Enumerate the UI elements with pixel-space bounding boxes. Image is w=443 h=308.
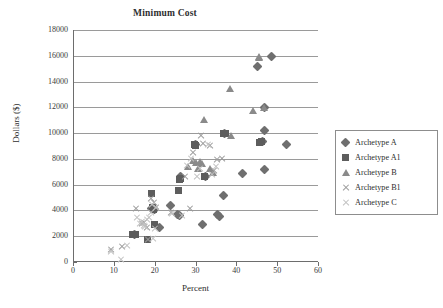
data-point-diamond [201,172,211,182]
x-axis-line [73,261,318,262]
y-axis-tick-labels: 0200040006000800010000120001400016000180… [34,30,68,262]
x-tick-label: 0 [60,266,86,275]
gridline [73,159,318,160]
x-tick-label: 30 [183,266,209,275]
data-point-square [192,142,199,149]
data-point-diamond [253,62,263,72]
gridline [73,107,318,108]
legend-item-archetype-a[interactable]: Archetype A [340,135,434,150]
legend-marker-triangle-icon [340,167,351,178]
data-point-star [208,170,216,178]
triangle-icon [342,169,350,176]
data-point-square [191,141,198,148]
data-point-square [256,139,263,146]
data-point-star [145,214,153,222]
y-tick-label: 12000 [48,102,68,111]
x-icon [342,184,350,192]
data-point-diamond [281,140,291,150]
legend-item-archetype-a1[interactable]: Archetype A1 [340,150,434,165]
diamond-icon [341,138,351,148]
x-tick-label: 50 [264,266,290,275]
data-point-diamond [155,223,165,233]
legend-item-archetype-b1[interactable]: Archetype B1 [340,180,434,195]
data-point-diamond [165,200,175,210]
star-icon [342,199,350,207]
data-point-x [206,142,214,150]
y-tick-label: 0 [64,257,68,266]
data-point-x [189,148,197,156]
gridline [73,210,318,211]
data-point-triangle [198,160,206,167]
data-point-triangle [194,165,202,172]
data-point-star [143,216,151,224]
y-tick-label: 10000 [48,128,68,137]
data-point-star [133,214,141,222]
data-point-x [140,219,148,227]
data-point-square [258,138,265,145]
data-point-x [181,173,189,181]
y-tick-label: 14000 [48,77,68,86]
x-axis-tick-labels: 0102030405060 [73,266,318,280]
data-point-triangle [192,159,200,166]
square-icon [342,154,349,161]
x-tick-label: 10 [101,266,127,275]
data-point-diamond [260,165,270,175]
data-point-star [148,201,156,209]
data-point-star [178,212,186,220]
data-point-star [196,165,204,173]
data-point-diamond [198,220,208,230]
data-point-diamond [191,140,201,150]
x-tick-label: 60 [305,266,331,275]
data-point-star [123,242,131,250]
data-point-diamond [174,211,184,221]
chart-title: Minimum Cost [0,8,330,18]
legend-label: Archetype A [355,138,397,147]
data-point-triangle [226,85,234,92]
data-point-triangle [255,54,263,61]
data-point-triangle [184,163,192,170]
data-point-square [150,206,157,213]
data-point-diamond [172,210,182,220]
legend-label: Archetype B [355,168,397,177]
legend-item-archetype-c[interactable]: Archetype C [340,195,434,210]
data-point-x [138,220,146,228]
x-tick-mark [196,262,197,266]
data-point-square [201,173,208,180]
data-point-square [175,187,182,194]
legend-label: Archetype A1 [355,153,401,162]
data-point-x [199,139,207,147]
y-tick-label: 6000 [52,180,68,189]
legend-marker-diamond-icon [340,137,351,148]
y-tick-label: 16000 [48,51,68,60]
x-tick-label: 20 [142,266,168,275]
data-point-star [183,162,191,170]
x-tick-mark [236,262,237,266]
x-tick-mark [73,262,74,266]
data-point-diamond [238,168,248,178]
data-point-square [129,231,136,238]
legend-item-archetype-b[interactable]: Archetype B [340,165,434,180]
data-point-x [147,195,155,203]
data-point-x [150,199,158,207]
data-point-star [193,172,201,180]
minimum-cost-scatter-chart: Minimum Cost Dollars ($) Percent 0200040… [0,0,443,308]
data-point-x [143,224,151,232]
gridline [73,30,318,31]
data-point-square [151,221,158,228]
x-tick-mark [318,262,319,266]
data-point-star [151,224,159,232]
gridline [73,236,318,237]
data-point-diamond [258,137,268,147]
x-tick-mark [114,262,115,266]
data-point-diamond [129,229,139,239]
data-point-square [176,176,183,183]
data-point-diamond [218,191,228,201]
data-point-x [213,156,221,164]
plot-area [73,30,318,262]
data-point-star [117,255,125,263]
gridline [73,185,318,186]
data-point-diamond [214,212,224,222]
data-point-x [210,166,218,174]
legend-label: Archetype C [355,198,397,207]
data-point-star [107,248,115,256]
